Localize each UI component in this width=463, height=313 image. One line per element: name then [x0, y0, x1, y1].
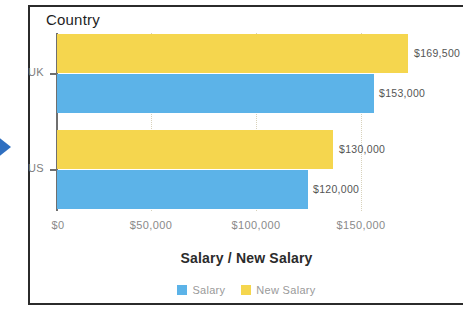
legend-swatch-new-salary: [241, 285, 251, 295]
x-tick-label-0: $0: [51, 219, 64, 231]
x-tick-label-100000: $100,000: [231, 219, 280, 231]
bar-us-new-salary: [57, 130, 333, 169]
legend-item-new-salary[interactable]: New Salary: [241, 284, 315, 296]
right-arrow-icon: [0, 131, 11, 163]
legend-swatch-salary: [177, 285, 187, 295]
x-tick-label-50000: $50,000: [130, 219, 173, 231]
legend-item-salary[interactable]: Salary: [177, 284, 225, 296]
bar-label-uk-salary: $153,000: [379, 87, 425, 99]
plot-area: UK $169,500 $153,000 US $130,000 $120,00…: [56, 33, 436, 211]
y-axis-label-us: US: [4, 162, 44, 174]
chart-panel: Country UK $169,500 $153,000 US $130,000…: [28, 5, 463, 305]
bar-label-us-salary: $120,000: [313, 183, 359, 195]
legend-label-new-salary: New Salary: [256, 284, 315, 296]
bar-us-salary: [57, 170, 308, 209]
bar-label-us-new-salary: $130,000: [339, 143, 385, 155]
legend: Salary New Salary: [30, 284, 463, 296]
y-tick-us: [50, 169, 57, 171]
y-axis-label-uk: UK: [4, 66, 44, 78]
axis-group-title: Country: [46, 11, 100, 28]
x-axis-title: Salary / New Salary: [30, 250, 463, 266]
y-tick-uk: [50, 73, 57, 75]
bar-uk-new-salary: [57, 34, 408, 73]
bar-uk-salary: [57, 74, 374, 113]
legend-label-salary: Salary: [192, 284, 225, 296]
bar-label-uk-new-salary: $169,500: [414, 47, 460, 59]
x-tick-label-150000: $150,000: [336, 219, 385, 231]
